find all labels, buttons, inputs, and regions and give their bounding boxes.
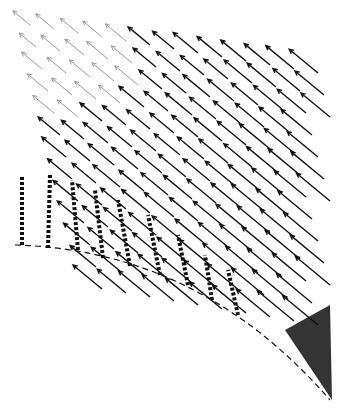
velocity-arrow bbox=[156, 51, 180, 71]
velocity-arrow bbox=[278, 191, 312, 219]
near-wall-streak bbox=[48, 175, 50, 248]
velocity-arrow bbox=[131, 130, 156, 151]
velocity-arrow bbox=[33, 95, 54, 113]
velocity-arrow bbox=[52, 78, 72, 95]
velocity-arrow bbox=[128, 27, 150, 45]
velocity-arrow bbox=[36, 14, 54, 29]
velocity-arrow bbox=[64, 223, 90, 245]
velocity-arrow bbox=[72, 163, 96, 183]
velocity-arrow bbox=[231, 184, 264, 211]
near-wall-streak bbox=[228, 270, 238, 315]
velocity-arrow bbox=[119, 86, 144, 107]
velocity-arrow bbox=[92, 63, 114, 81]
velocity-arrow bbox=[276, 274, 312, 303]
velocity-arrow bbox=[165, 93, 192, 115]
velocity-arrow bbox=[115, 66, 138, 85]
velocity-arrow bbox=[150, 113, 174, 133]
velocity-arrow bbox=[173, 32, 198, 53]
velocity-arrow bbox=[73, 265, 102, 289]
velocity-arrow bbox=[111, 46, 132, 63]
velocity-arrow bbox=[247, 248, 282, 277]
velocity-arrow bbox=[83, 123, 108, 143]
velocity-arrow bbox=[197, 36, 222, 57]
velocity-arrow bbox=[301, 93, 330, 117]
velocity-arrow bbox=[47, 57, 66, 73]
velocity-arrow bbox=[158, 154, 186, 177]
velocity-arrow bbox=[57, 201, 84, 223]
velocity-arrow bbox=[257, 290, 294, 321]
velocity-arrow bbox=[80, 103, 102, 121]
velocity-arrow bbox=[108, 127, 132, 147]
velocity-arrow bbox=[112, 147, 138, 169]
velocity-arrow bbox=[75, 81, 96, 99]
velocity-arrow bbox=[281, 109, 312, 135]
vector-field-diagram bbox=[0, 0, 348, 415]
velocity-arrow bbox=[127, 110, 150, 129]
velocity-arrow bbox=[38, 117, 60, 135]
velocity-arrow bbox=[153, 31, 174, 49]
velocity-arrow bbox=[19, 33, 36, 47]
velocity-arrow bbox=[284, 213, 318, 241]
velocity-arrow bbox=[69, 60, 90, 77]
velocity-arrow bbox=[162, 73, 186, 93]
velocity-arrow bbox=[183, 75, 210, 97]
velocity-arrow bbox=[265, 230, 300, 259]
velocity-arrow bbox=[99, 85, 120, 103]
near-wall-streak bbox=[148, 215, 160, 275]
velocity-arrow bbox=[88, 144, 114, 165]
velocity-arrow bbox=[102, 106, 126, 125]
velocity-arrow bbox=[208, 79, 234, 101]
velocity-arrow bbox=[207, 264, 240, 291]
near-wall-streak bbox=[118, 200, 130, 266]
velocity-arrow bbox=[252, 270, 288, 299]
velocity-arrow bbox=[104, 207, 132, 231]
velocity-arrows bbox=[13, 11, 332, 400]
velocity-arrow bbox=[180, 55, 204, 75]
velocity-arrow bbox=[13, 11, 30, 25]
velocity-arrow bbox=[295, 71, 324, 95]
velocity-arrow bbox=[154, 134, 180, 155]
velocity-arrow bbox=[239, 124, 270, 149]
velocity-arrow bbox=[65, 140, 90, 161]
curved-wall-boundary bbox=[15, 245, 330, 400]
velocity-arrow bbox=[260, 209, 294, 237]
velocity-arrow bbox=[22, 52, 42, 69]
velocity-arrow bbox=[220, 224, 252, 251]
velocity-arrow bbox=[290, 235, 324, 263]
velocity-arrow bbox=[226, 246, 258, 273]
velocity-arrow bbox=[190, 97, 216, 119]
velocity-arrow bbox=[221, 40, 246, 61]
velocity-arrow bbox=[213, 285, 246, 313]
velocity-arrow bbox=[199, 139, 228, 163]
velocity-arrow bbox=[57, 100, 78, 117]
velocity-arrow bbox=[27, 74, 48, 91]
velocity-arrow bbox=[87, 41, 108, 59]
velocity-arrow bbox=[139, 70, 162, 89]
velocity-arrow bbox=[41, 35, 60, 51]
velocity-arrow bbox=[77, 184, 102, 205]
vector-field-plot bbox=[0, 0, 348, 415]
velocity-arrow bbox=[166, 278, 198, 305]
velocity-arrow bbox=[237, 289, 270, 317]
velocity-arrow bbox=[83, 21, 102, 37]
velocity-arrow bbox=[119, 170, 144, 191]
velocity-arrow bbox=[105, 24, 126, 41]
velocity-arrow bbox=[296, 173, 330, 201]
velocity-arrow bbox=[291, 152, 324, 179]
velocity-arrow bbox=[60, 18, 78, 33]
velocity-arrow bbox=[283, 296, 318, 325]
velocity-arrow bbox=[295, 256, 330, 285]
velocity-arrow bbox=[144, 91, 168, 111]
velocity-arrow bbox=[61, 120, 84, 139]
velocity-arrow bbox=[133, 48, 156, 67]
velocity-arrow bbox=[42, 137, 66, 157]
velocity-arrow bbox=[65, 39, 84, 55]
velocity-arrow bbox=[144, 193, 174, 217]
velocity-arrow bbox=[242, 227, 276, 255]
velocity-arrow bbox=[93, 165, 120, 187]
